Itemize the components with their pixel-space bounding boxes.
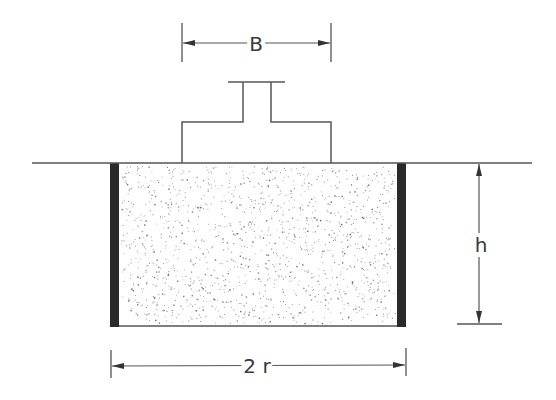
footing-outline xyxy=(182,82,243,163)
label-width-b: B xyxy=(247,34,265,54)
left-wall xyxy=(110,163,119,327)
soil-column xyxy=(110,164,406,326)
right-wall xyxy=(397,163,406,327)
footing-outline-right xyxy=(271,82,331,163)
label-diameter-2r: 2 r xyxy=(241,356,272,376)
soil-fill xyxy=(119,164,396,326)
diagram-canvas xyxy=(0,0,556,400)
label-height-h: h xyxy=(475,233,488,257)
